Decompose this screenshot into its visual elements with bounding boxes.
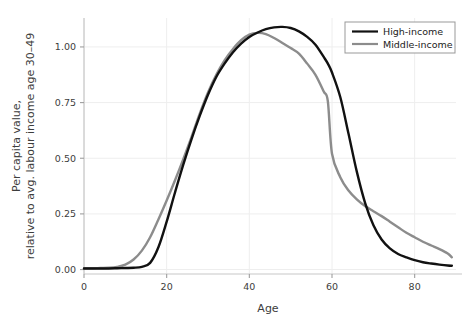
legend[interactable]: High-income Middle-income [345,22,455,53]
x-tick-label: 20 [161,281,173,292]
x-tick-label: 40 [243,281,255,292]
x-tick-label: 60 [326,281,338,292]
y-axis-title-line2: relative to avg. labour income age 30–49 [24,33,37,260]
x-axis-title: Age [257,302,279,315]
y-axis-title-line1: Per capita value, [10,100,23,192]
x-tick-label: 80 [409,281,421,292]
legend-label-middle-income[interactable]: Middle-income [383,39,453,50]
x-axis-title-text: Age [257,302,279,315]
legend-label-high-income[interactable]: High-income [383,26,443,37]
chart-canvas: 0.000.250.500.751.00020406080 Age Per ca… [0,0,471,330]
y-tick-label: 0.50 [55,153,76,164]
y-tick-label: 1.00 [55,41,76,52]
x-tick-label: 0 [81,281,87,292]
y-tick-label: 0.25 [55,208,76,219]
y-tick-label: 0.00 [55,264,76,275]
chart-figure: 0.000.250.500.751.00020406080 Age Per ca… [0,0,471,330]
y-tick-label: 0.75 [55,97,76,108]
plot-background [84,18,456,274]
y-axis-title: Per capita value, relative to avg. labou… [10,33,37,260]
